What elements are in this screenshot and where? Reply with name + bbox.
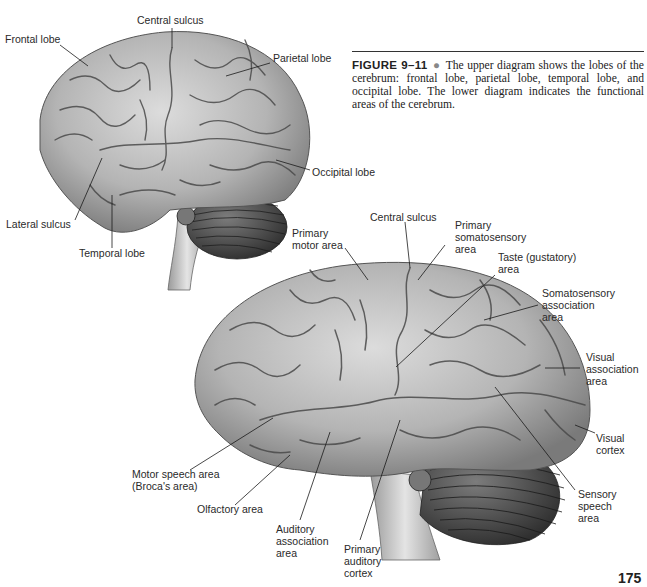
bullet-icon: ● (432, 59, 440, 72)
label-somatosensory-association-area: Somatosensory association area (542, 287, 615, 323)
label-parietal-lobe: Parietal lobe (273, 52, 331, 64)
label-primary-motor-area: Primary motor area (292, 227, 343, 251)
label-auditory-association-area: Auditory association area (276, 523, 329, 559)
label-olfactory-area: Olfactory area (197, 503, 263, 515)
figure-label: FIGURE 9–11 (352, 59, 427, 71)
label-motor-speech-area: Motor speech area (Broca's area) (132, 468, 220, 492)
label-occipital-lobe: Occipital lobe (312, 166, 375, 178)
label-lower-central-sulcus: Central sulcus (370, 211, 437, 223)
label-temporal-lobe: Temporal lobe (79, 247, 145, 259)
label-sensory-speech-area: Sensory speech area (578, 488, 617, 524)
figure-caption: FIGURE 9–11●The upper diagram shows the … (352, 51, 644, 111)
label-visual-cortex: Visual cortex (596, 432, 625, 456)
label-primary-somatosensory-area: Primary somatosensory area (455, 219, 526, 255)
label-frontal-lobe: Frontal lobe (5, 33, 60, 45)
page-number: 175 (618, 570, 641, 586)
label-taste-area: Taste (gustatory) area (498, 251, 576, 275)
label-lateral-sulcus: Lateral sulcus (6, 218, 71, 230)
label-upper-central-sulcus: Central sulcus (137, 14, 204, 26)
label-visual-association-area: Visual association area (586, 351, 639, 387)
label-primary-auditory-cortex: Primary auditory cortex (344, 543, 381, 579)
